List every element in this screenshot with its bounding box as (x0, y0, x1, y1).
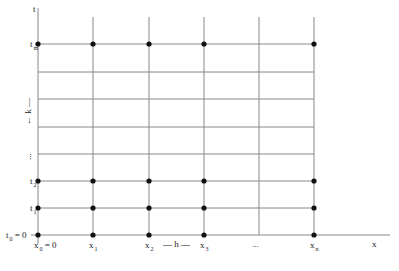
row-labels: tmt2t1t0 = 0 (6, 39, 39, 242)
t-axis-label: t (33, 4, 36, 14)
col-label-x1: x1 (89, 240, 98, 252)
x-axis-label: x (372, 239, 377, 249)
grid-point (311, 205, 316, 210)
grid-lines (31, 8, 390, 244)
grid-point (201, 232, 206, 237)
grid-point (90, 178, 95, 183)
k-spacing-label: ← k — (23, 97, 33, 125)
grid-point (146, 178, 151, 183)
grid-point (201, 41, 206, 46)
row-label-t0: t0 = 0 (6, 230, 27, 242)
t-ellipsis: ... (23, 153, 33, 160)
grid-point (311, 178, 316, 183)
grid-point (201, 178, 206, 183)
row-label-tm: tm (30, 39, 39, 51)
grid-point (146, 41, 151, 46)
row-label-t1: t1 (30, 203, 37, 215)
grid-diagram: t x — h — ← k — ... ... tmt2t1t0 = 0 x0 … (0, 0, 399, 271)
col-label-x0: x0 = 0 (34, 240, 57, 252)
col-label-xn: xn (310, 240, 319, 252)
grid-point (311, 41, 316, 46)
col-label-x2: x2 (145, 240, 154, 252)
grid-point (90, 205, 95, 210)
grid-point (90, 232, 95, 237)
x-ellipsis: ... (252, 239, 259, 249)
grid-point (146, 232, 151, 237)
grid-point (35, 232, 40, 237)
grid-point (146, 205, 151, 210)
row-label-t2: t2 (30, 176, 37, 188)
grid-point (311, 232, 316, 237)
col-label-x3: x3 (200, 240, 209, 252)
grid-point (90, 41, 95, 46)
h-spacing-label: — h — (162, 239, 191, 249)
grid-point (201, 205, 206, 210)
